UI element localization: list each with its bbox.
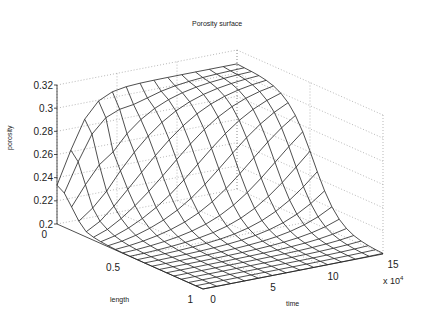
z-axis-label: porosity xyxy=(6,125,13,150)
chart-title: Porosity surface xyxy=(192,20,242,27)
surface-mesh-line-length xyxy=(130,151,310,256)
time-tick-label: 5 xyxy=(270,282,276,293)
grid-line-z-back-left xyxy=(57,189,237,224)
surface-mesh-line-length xyxy=(196,250,376,286)
z-tick-label: 0.2 xyxy=(39,219,53,230)
time-tick-label: 10 xyxy=(327,271,339,282)
multiplier-exponent: 4 xyxy=(400,275,403,281)
multiplier-base: x 10 xyxy=(383,276,400,286)
surface-mesh-line-length xyxy=(108,103,288,246)
x-axis-label: length xyxy=(110,296,129,303)
surface-mesh-line-time xyxy=(85,119,231,283)
y-axis-label: time xyxy=(286,300,299,307)
surface-mesh-line-length xyxy=(159,219,339,269)
z-tick-label: 0.28 xyxy=(34,126,54,137)
time-multiplier: x 104 xyxy=(383,275,403,286)
surface-mesh-line-length xyxy=(101,93,281,242)
grid-line-z-back-left xyxy=(57,50,237,85)
grid-line-z-back-left xyxy=(57,96,237,131)
z-tick-label: 0.22 xyxy=(34,195,54,206)
z-tick-label: 0.32 xyxy=(34,80,54,91)
surface-plot: 0.20.220.240.260.280.30.3200.51051015 xyxy=(0,0,422,326)
time-tick-label: 0 xyxy=(210,294,216,305)
surface-mesh-line-time xyxy=(140,83,286,273)
grid-line-z-back-left xyxy=(57,143,237,178)
z-tick-label: 0.24 xyxy=(34,172,54,183)
porosity-surface-figure: 0.20.220.240.260.280.30.3200.51051015 Po… xyxy=(0,0,422,326)
surface-mesh-line-time xyxy=(223,67,369,257)
time-axis-line xyxy=(203,254,383,289)
z-tick-label: 0.26 xyxy=(34,149,54,160)
surface-mesh-line-length xyxy=(188,246,368,283)
surface-mesh-line-length xyxy=(79,76,259,222)
length-axis-line xyxy=(57,224,203,289)
z-tick-label: 0.3 xyxy=(39,103,53,114)
time-tick-label: 15 xyxy=(387,259,399,270)
length-tick-label: 1 xyxy=(187,294,193,305)
surface-mesh-line-length xyxy=(86,80,266,231)
length-tick-label: 0 xyxy=(41,229,47,240)
length-tick-label: 0.5 xyxy=(106,262,120,273)
surface-mesh-line-time xyxy=(57,185,203,289)
surface-mesh-line-time xyxy=(154,80,300,270)
surface-mesh-line-time xyxy=(126,87,272,276)
